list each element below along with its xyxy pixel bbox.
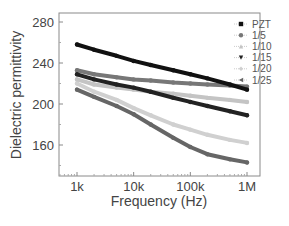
data-point: [188, 81, 192, 85]
legend: PZT1/51/101/151/201/25: [234, 19, 272, 86]
data-point: [188, 72, 192, 76]
data-point: [114, 104, 118, 108]
data-point: [75, 77, 79, 81]
data-point: [114, 54, 118, 58]
data-point: [228, 138, 232, 142]
data-point: [228, 82, 232, 86]
data-point: [171, 80, 175, 84]
data-point: [205, 82, 209, 86]
chart: 1k10k100k1M 160200240280 PZT1/51/101/151…: [0, 0, 289, 226]
data-point: [75, 72, 79, 76]
data-point: [245, 160, 249, 164]
legend-item: 1/25: [234, 75, 272, 86]
x-tick-label: 1k: [70, 179, 84, 194]
legend-item: PZT: [234, 19, 271, 30]
data-point: [149, 63, 153, 67]
legend-item: 1/15: [234, 52, 272, 63]
data-point: [149, 122, 153, 126]
legend-marker: [239, 67, 243, 71]
data-point: [171, 96, 175, 100]
legend-item: 1/5: [234, 30, 266, 41]
legend-marker: [239, 33, 243, 37]
data-point: [92, 95, 96, 99]
y-tick-label: 240: [32, 56, 54, 71]
data-point: [75, 68, 79, 72]
data-point: [171, 122, 175, 126]
data-point: [92, 82, 96, 86]
data-point: [131, 85, 135, 89]
data-point: [245, 87, 249, 91]
data-point: [75, 81, 79, 85]
legend-marker: [239, 22, 243, 26]
data-point: [114, 75, 118, 79]
data-point: [75, 42, 79, 46]
data-point: [188, 127, 192, 131]
y-axis-title: Dielectric permittivity: [8, 31, 24, 159]
series-layer: [75, 42, 249, 164]
data-point: [188, 145, 192, 149]
data-point: [92, 72, 96, 76]
legend-label: PZT: [252, 19, 271, 30]
data-point: [188, 94, 192, 98]
data-point: [205, 96, 209, 100]
data-point: [205, 152, 209, 156]
data-point: [131, 59, 135, 63]
data-point: [149, 113, 153, 117]
data-point: [171, 136, 175, 140]
data-point: [92, 47, 96, 51]
legend-label: 1/10: [252, 41, 272, 52]
data-point: [149, 90, 153, 94]
data-point: [171, 68, 175, 72]
data-point: [75, 87, 79, 91]
legend-marker: [239, 78, 243, 82]
data-point: [245, 100, 249, 104]
data-point: [149, 78, 153, 82]
y-tick-label: 200: [32, 97, 54, 112]
data-point: [228, 98, 232, 102]
x-axis-title: Frequency (Hz): [111, 193, 207, 209]
data-point: [228, 109, 232, 113]
y-tick-label: 280: [32, 15, 54, 30]
data-point: [92, 90, 96, 94]
data-point: [228, 157, 232, 161]
data-point: [188, 100, 192, 104]
data-point: [205, 76, 209, 80]
data-point: [245, 141, 249, 145]
legend-item: 1/10: [234, 41, 272, 52]
x-tick-label: 100k: [176, 179, 205, 194]
data-point: [131, 112, 135, 116]
data-point: [92, 77, 96, 81]
data-point: [205, 133, 209, 137]
legend-label: 1/25: [252, 75, 272, 86]
data-point: [171, 92, 175, 96]
x-tick-label: 1M: [238, 179, 256, 194]
y-tick-label: 160: [32, 138, 54, 153]
data-point: [114, 82, 118, 86]
y-axis: 160200240280: [32, 15, 63, 166]
data-point: [114, 98, 118, 102]
legend-label: 1/15: [252, 52, 272, 63]
legend-label: 1/5: [252, 30, 266, 41]
data-point: [131, 77, 135, 81]
x-axis: 1k10k100k1M: [60, 172, 256, 194]
data-point: [245, 113, 249, 117]
legend-label: 1/20: [252, 63, 272, 74]
data-point: [131, 106, 135, 110]
data-point: [205, 104, 209, 108]
legend-item: 1/20: [234, 63, 272, 74]
x-tick-label: 10k: [123, 179, 144, 194]
